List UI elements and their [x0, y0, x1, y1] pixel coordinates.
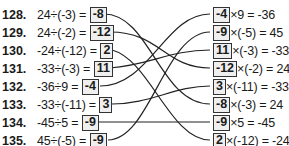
problem-row: 130.-24÷(-12) = 2	[2, 42, 113, 60]
problem-number: 130.	[2, 42, 37, 60]
answer-box: -8	[90, 7, 107, 23]
division-expression: -24÷(-12) =	[37, 44, 97, 58]
value-box: -8	[213, 97, 230, 113]
check-row: 11×(-3) = -33	[213, 42, 289, 60]
answer-box: -4	[82, 79, 99, 95]
problem-number: 129.	[2, 24, 37, 42]
multiplication-expression: ×(-12) = -24	[226, 134, 289, 146]
problem-row: 128.24÷(-3) = -8	[2, 6, 107, 24]
multiplication-expression: ×5 = -45	[230, 116, 275, 130]
division-expression: -36÷9 =	[37, 80, 78, 94]
value-box: -12	[213, 61, 237, 77]
problem-number: 133.	[2, 96, 37, 114]
problem-number: 131.	[2, 60, 37, 78]
check-row: 3×(-11) = -33	[213, 78, 289, 96]
problem-number: 135.	[2, 132, 37, 146]
check-row: -12×(-2) = 24	[213, 60, 289, 78]
check-row: -9×(-5) = 45	[213, 24, 283, 42]
multiplication-expression: ×(-11) = -33	[226, 80, 289, 94]
problem-row: 129.24÷(-2) = -12	[2, 24, 114, 42]
problem-number: 128.	[2, 6, 37, 24]
multiplication-expression: ×(-3) = 24	[230, 98, 283, 112]
division-expression: -33÷(-3) =	[37, 62, 90, 76]
multiplication-expression: ×(-3) = -33	[232, 44, 289, 58]
multiplication-expression: ×(-2) = 24	[237, 62, 289, 76]
division-expression: 24÷(-3) =	[37, 8, 86, 22]
answer-box: 3	[99, 97, 112, 113]
check-row: 2×(-12) = -24	[213, 132, 289, 146]
value-box: -9	[213, 25, 230, 41]
division-expression: 45÷(-5) =	[37, 134, 86, 146]
problem-row: 132.-36÷9 = -4	[2, 78, 99, 96]
multiplication-expression: ×(-5) = 45	[230, 26, 283, 40]
problem-row: 134.-45÷5 = -9	[2, 114, 99, 132]
problem-row: 131.-33÷(-3) = 11	[2, 60, 113, 78]
check-row: -4×9 = -36	[213, 6, 275, 24]
division-expression: -45÷5 =	[37, 116, 78, 130]
value-box: -9	[213, 115, 230, 131]
check-row: -9×5 = -45	[213, 114, 275, 132]
problem-number: 134.	[2, 114, 37, 132]
match-line	[100, 14, 210, 86]
answer-box: 11	[94, 61, 113, 77]
answer-box: -9	[82, 115, 99, 131]
division-expression: 24÷(-2) =	[37, 26, 86, 40]
problem-number: 132.	[2, 78, 37, 96]
value-box: 3	[213, 79, 226, 95]
answer-box: -12	[90, 25, 114, 41]
value-box: 2	[213, 133, 226, 146]
multiplication-expression: ×9 = -36	[230, 8, 275, 22]
problem-row: 133.-33÷(-11) = 3	[2, 96, 112, 114]
division-expression: -33÷(-11) =	[37, 98, 96, 112]
match-line	[110, 32, 210, 68]
value-box: 11	[213, 43, 232, 59]
value-box: -4	[213, 7, 230, 23]
answer-box: -9	[90, 133, 107, 146]
answer-box: 2	[100, 43, 113, 59]
check-row: -8×(-3) = 24	[213, 96, 283, 114]
problem-row: 135.45÷(-5) = -9	[2, 132, 107, 146]
